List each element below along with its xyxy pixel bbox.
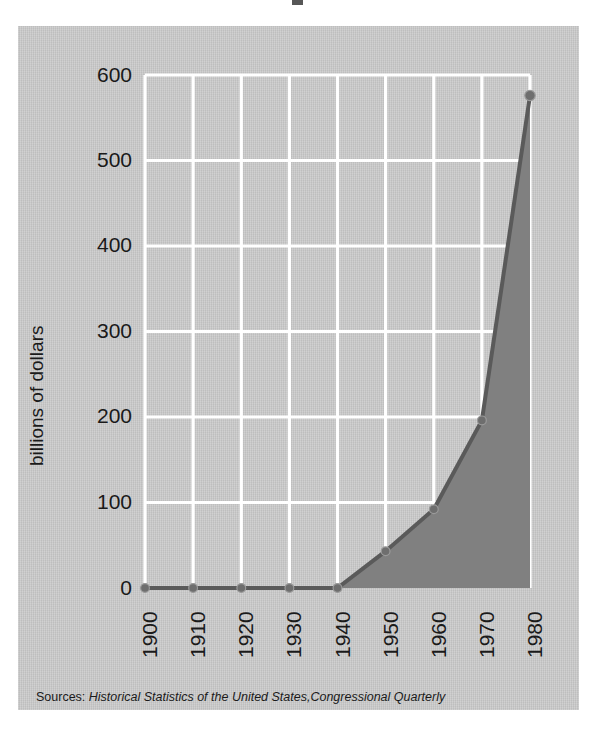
- source-note: Sources: Historical Statistics of the Un…: [36, 690, 445, 704]
- data-point-1940: [333, 584, 342, 593]
- ytick-label-200: 200: [62, 404, 132, 428]
- data-point-1910: [189, 584, 198, 593]
- data-point-1900: [141, 584, 150, 593]
- xtick-label-1960: 1960: [427, 611, 451, 658]
- ytick-label-500: 500: [62, 148, 132, 172]
- data-point-1960: [429, 505, 438, 514]
- data-point-1970: [478, 416, 487, 425]
- xtick-label-1940: 1940: [331, 611, 355, 658]
- ytick-label-100: 100: [62, 490, 132, 514]
- xtick-label-1950: 1950: [379, 611, 403, 658]
- xtick-label-1910: 1910: [186, 611, 210, 658]
- xtick-label-1930: 1930: [282, 611, 306, 658]
- xtick-label-1980: 1980: [523, 611, 547, 658]
- xtick-label-1920: 1920: [234, 611, 258, 658]
- data-point-1930: [285, 584, 294, 593]
- ytick-label-300: 300: [62, 319, 132, 343]
- xtick-label-1900: 1900: [138, 611, 162, 658]
- ytick-label-400: 400: [62, 233, 132, 257]
- xtick-label-1970: 1970: [475, 611, 499, 658]
- source-note-citation: Historical Statistics of the United Stat…: [89, 690, 445, 704]
- y-axis-title: billions of dollars: [26, 326, 48, 466]
- chart-figure: 600 500 400 300 200 100 0 1900 1910 1920…: [0, 0, 599, 737]
- source-note-label: Sources:: [36, 690, 89, 704]
- ytick-label-600: 600: [62, 63, 132, 87]
- data-point-1980: [525, 90, 535, 100]
- data-point-1920: [237, 584, 246, 593]
- data-point-1950: [381, 547, 390, 556]
- ytick-label-0: 0: [62, 576, 132, 600]
